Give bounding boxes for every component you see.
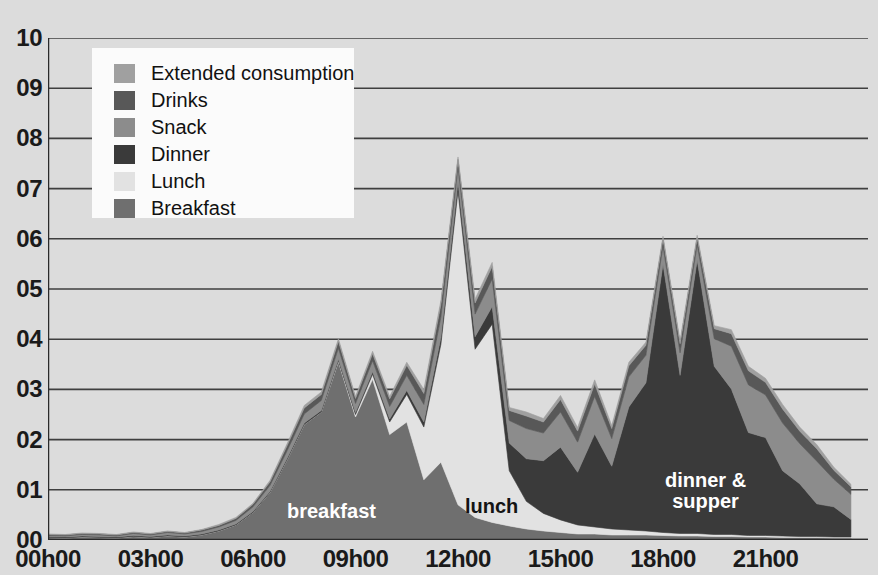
legend-swatch-icon [114, 118, 135, 137]
legend-swatch-icon [114, 172, 135, 191]
legend-item: Snack [114, 114, 354, 140]
legend-swatch-icon [114, 145, 135, 164]
legend-swatch-icon [114, 64, 135, 83]
y-tick-07: 07 [16, 175, 42, 203]
y-tick-02: 02 [16, 426, 42, 454]
y-tick-08: 08 [16, 124, 42, 152]
legend-label: Breakfast [151, 198, 235, 218]
annotation-dinner-supper: dinner & supper [665, 470, 746, 512]
x-tick-00h00: 00h00 [15, 545, 81, 573]
legend-item: Breakfast [114, 195, 354, 221]
x-tick-12h00: 12h00 [425, 545, 491, 573]
y-tick-06: 06 [16, 225, 42, 253]
annotation-lunch: lunch [465, 496, 518, 517]
legend-item: Lunch [114, 168, 354, 194]
y-tick-01: 01 [16, 476, 42, 504]
chart-legend: Extended consumptionDrinksSnackDinnerLun… [92, 48, 354, 218]
y-tick-05: 05 [16, 275, 42, 303]
x-tick-18h00: 18h00 [630, 545, 696, 573]
legend-label: Drinks [151, 90, 208, 110]
legend-label: Extended consumption [151, 63, 354, 83]
legend-item: Drinks [114, 87, 354, 113]
x-tick-15h00: 15h00 [528, 545, 594, 573]
legend-swatch-icon [114, 199, 135, 218]
annotation-breakfast: breakfast [287, 501, 376, 522]
chart-canvas: 0001020304050607080910 00h0003h0006h0009… [0, 0, 878, 575]
x-tick-03h00: 03h00 [118, 545, 184, 573]
legend-label: Dinner [151, 144, 210, 164]
x-tick-21h00: 21h00 [733, 545, 799, 573]
y-tick-09: 09 [16, 74, 42, 102]
y-tick-04: 04 [16, 325, 42, 353]
legend-label: Lunch [151, 171, 206, 191]
y-tick-03: 03 [16, 375, 42, 403]
x-tick-06h00: 06h00 [220, 545, 286, 573]
legend-item: Extended consumption [114, 60, 354, 86]
y-tick-10: 10 [16, 24, 42, 52]
legend-swatch-icon [114, 91, 135, 110]
x-tick-09h00: 09h00 [323, 545, 389, 573]
legend-item: Dinner [114, 141, 354, 167]
legend-label: Snack [151, 117, 207, 137]
y-axis-labels: 0001020304050607080910 [0, 0, 42, 575]
